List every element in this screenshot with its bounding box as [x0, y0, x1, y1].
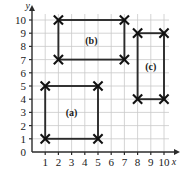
- y-tick-label: 1: [21, 133, 27, 145]
- y-tick-label: 5: [21, 80, 27, 92]
- y-tick-label: 4: [21, 93, 27, 105]
- x-tick-label: 10: [159, 156, 171, 168]
- y-tick-label: 10: [15, 14, 27, 26]
- y-tick-label: 9: [21, 27, 27, 39]
- plot-canvas: 12345678910012345678910 (a)(b)(c) yx: [0, 0, 186, 180]
- x-axis-arrow-icon: [174, 149, 180, 155]
- x-tick-label: 6: [108, 156, 114, 168]
- x-tick-label: 2: [56, 156, 62, 168]
- rectangle-label: (b): [85, 35, 97, 47]
- rectangle-label: (a): [66, 107, 78, 119]
- rectangles-group: [45, 20, 164, 139]
- rectangle-label: (c): [145, 61, 156, 73]
- x-tick-label: 4: [82, 156, 88, 168]
- axes-group: [29, 5, 180, 155]
- corner-markers-group: [41, 15, 169, 143]
- y-tick-label: 8: [21, 40, 27, 52]
- y-tick-label: 2: [21, 120, 27, 132]
- y-tick-label: 6: [21, 67, 27, 79]
- y-tick-label: 3: [21, 106, 27, 118]
- y-tick-label: 7: [21, 54, 27, 66]
- x-axis-label: x: [171, 156, 177, 167]
- y-axis-label: y: [25, 0, 31, 11]
- x-tick-label: 5: [95, 156, 101, 168]
- x-tick-label: 9: [148, 156, 154, 168]
- x-tick-label: 1: [42, 156, 48, 168]
- x-tick-label: 7: [122, 156, 128, 168]
- y-tick-label: 0: [21, 146, 27, 158]
- x-tick-label: 3: [69, 156, 75, 168]
- coordinate-grid-figure: 12345678910012345678910 (a)(b)(c) yx: [0, 0, 186, 180]
- x-tick-label: 8: [135, 156, 141, 168]
